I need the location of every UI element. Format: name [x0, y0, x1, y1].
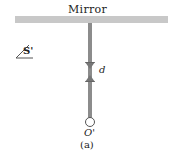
origin-label: O'	[84, 127, 95, 138]
mirror	[15, 16, 168, 23]
observer-label: S'	[23, 45, 33, 56]
figure-caption: (a)	[80, 139, 94, 150]
distance-label: d	[99, 64, 105, 75]
origin-point	[85, 117, 95, 127]
distance-arrow-icon	[83, 62, 97, 82]
mirror-label: Mirror	[0, 3, 175, 16]
